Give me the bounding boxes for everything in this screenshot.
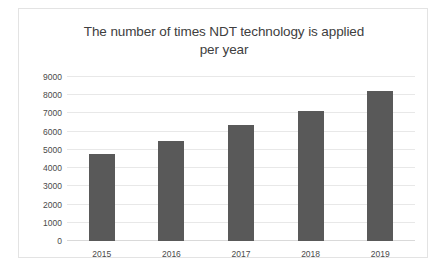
bar <box>89 154 115 241</box>
y-axis-tick-label: 7000 <box>43 108 62 118</box>
plot-area: 9000800070006000500040003000200010000 20… <box>67 77 415 241</box>
bar <box>367 91 393 241</box>
bar-group: 2019 <box>345 77 415 241</box>
chart-title-line-1: The number of times NDT technology is ap… <box>49 23 399 41</box>
bar <box>298 111 324 241</box>
bar-group: 2016 <box>137 77 207 241</box>
chart-title: The number of times NDT technology is ap… <box>49 23 399 59</box>
x-axis-tick-label: 2016 <box>162 249 181 259</box>
y-axis-tick-label: 9000 <box>43 72 62 82</box>
bar-group: 2018 <box>276 77 346 241</box>
bar-group: 2017 <box>206 77 276 241</box>
x-axis-tick-label: 2015 <box>92 249 111 259</box>
y-axis-tick-label: 6000 <box>43 127 62 137</box>
y-axis-tick-label: 5000 <box>43 145 62 155</box>
bar-series: 20152016201720182019 <box>67 77 415 241</box>
chart-frame: The number of times NDT technology is ap… <box>18 8 428 258</box>
x-axis-tick-label: 2017 <box>232 249 251 259</box>
bar-group: 2015 <box>67 77 137 241</box>
y-axis-tick-label: 8000 <box>43 90 62 100</box>
bar <box>228 125 254 241</box>
y-axis-tick-label: 3000 <box>43 181 62 191</box>
y-axis-tick-label: 4000 <box>43 163 62 173</box>
chart-title-line-2: per year <box>49 41 399 59</box>
x-axis-tick-label: 2018 <box>301 249 320 259</box>
bar <box>158 141 184 241</box>
y-axis-tick-label: 2000 <box>43 200 62 210</box>
y-axis-tick-label: 1000 <box>43 218 62 228</box>
x-axis-tick-label: 2019 <box>371 249 390 259</box>
y-axis-tick-label: 0 <box>57 236 62 246</box>
